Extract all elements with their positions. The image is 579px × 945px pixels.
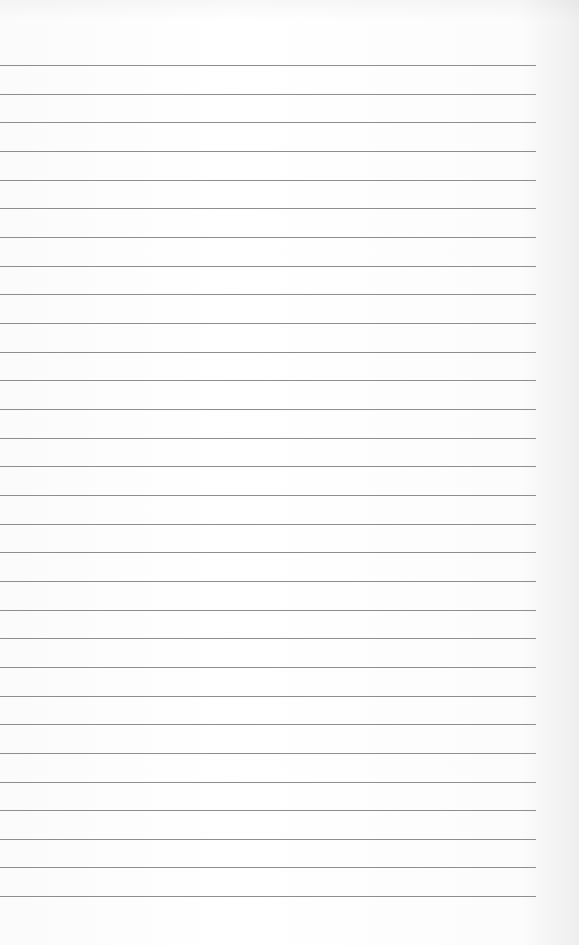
ruled-line bbox=[0, 294, 536, 295]
ruled-line bbox=[0, 438, 536, 439]
ruled-line bbox=[0, 867, 536, 868]
ruled-line bbox=[0, 495, 536, 496]
paper-shadow bbox=[0, 0, 579, 20]
ruled-line bbox=[0, 896, 536, 897]
ruled-line bbox=[0, 724, 536, 725]
ruled-line bbox=[0, 380, 536, 381]
ruled-line bbox=[0, 237, 536, 238]
ruled-line bbox=[0, 581, 536, 582]
ruled-line bbox=[0, 552, 536, 553]
ruled-line bbox=[0, 696, 536, 697]
ruled-line bbox=[0, 782, 536, 783]
lined-paper-sheet bbox=[0, 0, 579, 945]
ruled-line bbox=[0, 667, 536, 668]
ruled-line bbox=[0, 810, 536, 811]
ruled-line bbox=[0, 208, 536, 209]
ruled-line bbox=[0, 323, 536, 324]
ruled-line bbox=[0, 65, 536, 66]
ruled-line bbox=[0, 466, 536, 467]
ruled-line bbox=[0, 266, 536, 267]
ruled-line bbox=[0, 94, 536, 95]
ruled-line bbox=[0, 839, 536, 840]
ruled-line bbox=[0, 180, 536, 181]
ruled-line bbox=[0, 753, 536, 754]
ruled-line bbox=[0, 638, 536, 639]
ruled-line bbox=[0, 409, 536, 410]
ruled-line bbox=[0, 524, 536, 525]
ruled-line bbox=[0, 122, 536, 123]
ruled-line bbox=[0, 151, 536, 152]
ruled-line bbox=[0, 610, 536, 611]
ruled-line bbox=[0, 352, 536, 353]
